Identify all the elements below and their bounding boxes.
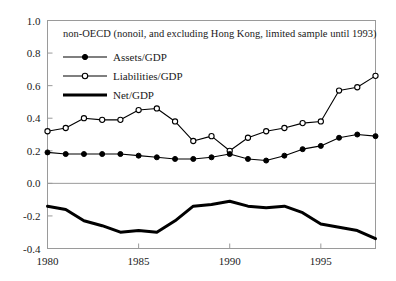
data-point xyxy=(81,116,86,121)
data-point xyxy=(355,132,360,137)
data-point xyxy=(318,143,323,148)
data-point xyxy=(63,152,68,157)
data-point xyxy=(136,153,141,158)
data-point xyxy=(136,107,141,112)
y-tick-label: 1.0 xyxy=(27,15,41,27)
data-point xyxy=(81,152,86,157)
data-point xyxy=(172,119,177,124)
data-point xyxy=(63,125,68,130)
data-point xyxy=(118,152,123,157)
x-tick-label: 1980 xyxy=(37,255,60,267)
data-point xyxy=(100,152,105,157)
data-point xyxy=(336,88,341,93)
y-tick-label: 0.6 xyxy=(27,80,41,92)
x-tick-label: 1985 xyxy=(128,255,151,267)
data-point xyxy=(264,158,269,163)
line-chart: -0.4-0.20.00.20.40.60.81.0 1980198519901… xyxy=(0,0,396,281)
y-tick-label: 0.4 xyxy=(27,112,41,124)
data-point xyxy=(300,121,305,126)
y-tick-label: 0.2 xyxy=(27,145,41,157)
chart-container: -0.4-0.20.00.20.40.60.81.0 1980198519901… xyxy=(0,0,396,281)
data-point xyxy=(245,135,250,140)
x-tick-label: 1995 xyxy=(310,255,333,267)
data-point xyxy=(209,134,214,139)
data-point xyxy=(173,156,178,161)
data-point xyxy=(154,106,159,111)
data-point xyxy=(337,135,342,140)
data-point xyxy=(282,125,287,130)
y-tick-label: 0.8 xyxy=(27,47,41,59)
data-point xyxy=(373,73,378,78)
legend-label: Liabilities/GDP xyxy=(113,70,183,82)
y-tick-label: -0.2 xyxy=(23,210,40,222)
y-tick-label: 0.0 xyxy=(27,177,41,189)
data-point xyxy=(45,129,50,134)
data-point xyxy=(318,119,323,124)
legend-filled-circle-icon xyxy=(82,54,87,59)
data-point xyxy=(282,153,287,158)
chart-background xyxy=(0,0,396,281)
legend-label: Assets/GDP xyxy=(113,51,167,63)
data-point xyxy=(245,156,250,161)
data-point xyxy=(209,155,214,160)
data-point xyxy=(227,152,232,157)
data-point xyxy=(118,117,123,122)
data-point xyxy=(154,155,159,160)
data-point xyxy=(45,150,50,155)
legend-label: Net/GDP xyxy=(113,89,154,101)
legend-open-circle-icon xyxy=(82,73,87,78)
chart-title: non-OECD (nonoil, and excluding Hong Kon… xyxy=(63,28,377,40)
data-point xyxy=(264,129,269,134)
data-point xyxy=(300,147,305,152)
data-point xyxy=(373,134,378,139)
data-point xyxy=(191,138,196,143)
data-point xyxy=(100,117,105,122)
x-tick-label: 1990 xyxy=(219,255,242,267)
data-point xyxy=(191,156,196,161)
data-point xyxy=(355,85,360,90)
y-tick-label: -0.4 xyxy=(23,243,41,255)
